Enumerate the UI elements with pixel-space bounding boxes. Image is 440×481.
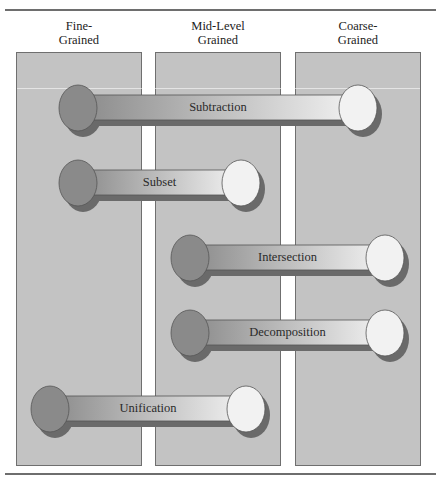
bone-intersection: Intersection (171, 235, 413, 289)
bone-subset: Subset (59, 160, 269, 214)
bone-label: Decomposition (171, 325, 404, 340)
bone-unification: Unification (31, 386, 274, 440)
bone-decomposition: Decomposition (171, 310, 413, 364)
bottom-rule (5, 473, 436, 475)
top-rule (5, 9, 436, 11)
bone-label: Unification (31, 401, 265, 416)
bone-label: Intersection (171, 250, 404, 265)
bone-label: Subset (59, 175, 260, 190)
column-header-line2: Grained (16, 33, 142, 47)
bone-label: Subtraction (59, 100, 377, 115)
bone-subtraction: Subtraction (59, 85, 385, 139)
column-header-line2: Grained (155, 33, 281, 47)
column-header-fine: Fine- Grained (16, 19, 142, 47)
column-header-coarse: Coarse- Grained (295, 19, 421, 47)
column-header-line1: Fine- (16, 19, 142, 33)
column-header-line1: Mid-Level (155, 19, 281, 33)
column-header-line2: Grained (295, 33, 421, 47)
column-header-line1: Coarse- (295, 19, 421, 33)
column-header-mid: Mid-Level Grained (155, 19, 281, 47)
